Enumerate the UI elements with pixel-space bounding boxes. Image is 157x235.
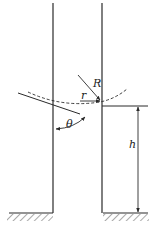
ground-left xyxy=(7,213,53,221)
label-theta: θ xyxy=(66,118,73,131)
capillary-rise-diagram: h R r θ xyxy=(0,0,157,235)
label-h: h xyxy=(129,138,136,151)
ground-right xyxy=(103,213,149,221)
label-R: R xyxy=(92,77,101,90)
label-r: r xyxy=(81,89,87,102)
contact-angle-tangent-line xyxy=(18,93,80,114)
